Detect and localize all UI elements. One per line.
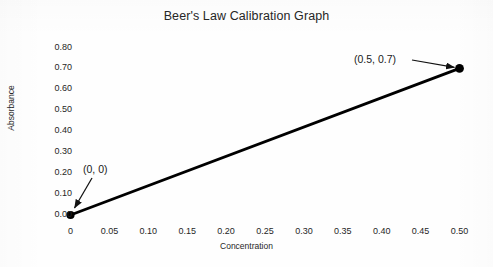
y-axis-title: Absorbance	[6, 73, 16, 143]
x-tick-label: 0.25	[245, 226, 285, 236]
x-tick-label: 0.30	[284, 226, 324, 236]
y-tick-label: 0.80	[38, 42, 72, 52]
y-tick-label: 0.20	[38, 167, 72, 177]
x-tick-label: 0.05	[89, 226, 129, 236]
y-tick-label: 0.60	[38, 83, 72, 93]
y-tick-label: 0.50	[38, 104, 72, 114]
x-tick-label: 0.45	[401, 226, 441, 236]
y-tick-label: 0.30	[38, 146, 72, 156]
beers-law-calibration-chart: Beer's Law Calibration Graph Absorbance …	[0, 0, 493, 267]
x-tick-label: 0.50	[440, 226, 480, 236]
data-point-marker-endpoint	[455, 64, 464, 73]
x-tick-label: 0.35	[323, 226, 363, 236]
annotation-leader-origin	[75, 178, 93, 208]
y-tick-label: 0.70	[38, 62, 72, 72]
annotation-origin-label: (0, 0)	[83, 163, 108, 175]
y-tick-label: 0.40	[38, 125, 72, 135]
plot-area: Absorbance Concentration 0.000.100.200.3…	[0, 0, 493, 267]
x-tick-label: 0.10	[128, 226, 168, 236]
annotation-endpoint-label: (0.5, 0.7)	[354, 53, 396, 65]
calibration-line	[71, 68, 460, 215]
x-axis-title: Concentration	[0, 241, 493, 251]
y-tick-label: 0.10	[38, 188, 72, 198]
annotation-leader-endpoint	[412, 60, 455, 67]
y-tick-label: 0.00	[38, 209, 72, 219]
x-tick-label: 0.20	[206, 226, 246, 236]
x-tick-label: 0.15	[167, 226, 207, 236]
x-tick-label: 0	[51, 226, 91, 236]
x-tick-label: 0.40	[362, 226, 402, 236]
